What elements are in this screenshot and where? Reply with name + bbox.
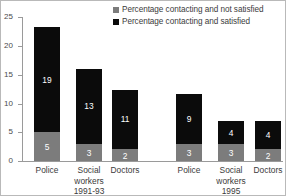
x-label-line: workers — [204, 176, 258, 187]
y-tick-label-20: 20 — [0, 42, 13, 50]
bar-segment-not-satisfied: 5 — [34, 132, 60, 161]
y-tick-label-0: 0 — [0, 157, 13, 165]
bar-segment-satisfied: 19 — [34, 27, 60, 132]
y-tick-label-5: 5 — [0, 128, 13, 136]
x-label-line: Doctors — [241, 165, 286, 176]
bar-segment-satisfied: 9 — [176, 94, 202, 144]
x-axis-line — [22, 161, 283, 162]
bar-value-not-satisfied: 2 — [112, 151, 138, 161]
x-label-line: workers — [62, 176, 116, 187]
bar-value-satisfied: 11 — [112, 114, 138, 124]
bar-1995-police: 9 3 — [176, 94, 202, 161]
bar-segment-satisfied: 4 — [218, 121, 244, 144]
bar-1991-93-doctors: 11 2 — [112, 90, 138, 161]
bar-value-not-satisfied: 2 — [255, 151, 281, 161]
legend-label-not-satisfied: Percentage contacting and not satisfied — [122, 5, 263, 15]
x-label-line: Doctors — [98, 165, 152, 176]
x-label-1991-93-doctors: Doctors — [98, 165, 152, 176]
y-tick-25 — [18, 17, 23, 18]
bar-value-not-satisfied: 3 — [176, 148, 202, 158]
bar-segment-not-satisfied: 3 — [176, 144, 202, 161]
bar-segment-not-satisfied: 3 — [76, 144, 102, 161]
y-tick-20 — [18, 46, 23, 47]
bar-1991-93-police: 19 5 — [34, 27, 60, 161]
stacked-bar-chart: Percentage contacting and not satisfied … — [0, 0, 286, 196]
y-tick-label-10: 10 — [0, 100, 13, 108]
bar-segment-not-satisfied: 2 — [112, 149, 138, 161]
bar-value-satisfied: 4 — [255, 130, 281, 140]
bar-1995-social-workers: 4 3 — [218, 121, 244, 161]
bar-value-satisfied: 13 — [76, 101, 102, 111]
x-group-label-1995: 1995 — [204, 186, 258, 196]
legend-item-not-satisfied: Percentage contacting and not satisfied — [113, 4, 285, 15]
y-axis-line — [22, 17, 23, 162]
chart-legend: Percentage contacting and not satisfied … — [113, 4, 285, 28]
bar-value-not-satisfied: 5 — [34, 142, 60, 152]
bar-segment-satisfied: 4 — [255, 121, 281, 149]
y-tick-label-15: 15 — [0, 71, 13, 79]
legend-swatch-not-satisfied — [113, 7, 119, 13]
legend-swatch-satisfied — [113, 19, 119, 25]
bar-segment-not-satisfied: 2 — [255, 149, 281, 161]
x-label-1995-doctors: Doctors — [241, 165, 286, 176]
bar-segment-satisfied: 13 — [76, 69, 102, 144]
bar-1995-doctors: 4 2 — [255, 121, 281, 161]
bar-value-not-satisfied: 3 — [76, 148, 102, 158]
y-tick-10 — [18, 104, 23, 105]
bar-segment-not-satisfied: 3 — [218, 144, 244, 161]
bar-segment-satisfied: 11 — [112, 90, 138, 149]
bar-value-satisfied: 9 — [176, 114, 202, 124]
bar-value-satisfied: 4 — [218, 128, 244, 138]
y-tick-label-25: 25 — [0, 13, 13, 21]
bar-value-not-satisfied: 3 — [218, 148, 244, 158]
y-tick-15 — [18, 75, 23, 76]
y-tick-5 — [18, 132, 23, 133]
y-tick-0 — [18, 161, 23, 162]
x-group-label-1991-93: 1991-93 — [62, 186, 116, 196]
legend-item-satisfied: Percentage contacting and satisfied — [113, 16, 285, 27]
legend-label-satisfied: Percentage contacting and satisfied — [122, 17, 250, 27]
bar-1991-93-social-workers: 13 3 — [76, 69, 102, 161]
bar-value-satisfied: 19 — [34, 75, 60, 85]
